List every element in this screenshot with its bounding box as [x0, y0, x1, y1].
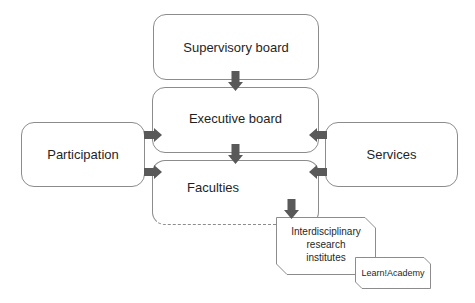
participation-label: Participation: [47, 147, 119, 162]
research-institutes-label-line-2: research: [291, 238, 360, 251]
research-institutes-label-line-3: institutes: [291, 251, 360, 264]
learn-academy-label: Learn!Academy: [355, 257, 431, 289]
services-label: Services: [367, 147, 417, 162]
faculties-label: Faculties: [187, 180, 239, 195]
executive-board-label: Executive board: [189, 111, 282, 126]
learn-academy-box: Learn!Academy: [355, 257, 431, 289]
supervisory-board-label: Supervisory board: [183, 40, 289, 55]
arrow-down-icon: [228, 71, 243, 91]
arrow-left-icon: [309, 165, 327, 179]
participation-box: Participation: [21, 122, 145, 187]
arrow-right-icon: [144, 128, 162, 142]
services-box: Services: [325, 122, 458, 187]
research-institutes-label-line-1: Interdisciplinary: [291, 225, 360, 238]
arrow-down-icon: [228, 144, 243, 164]
arrow-left-icon: [309, 128, 327, 142]
arrow-right-icon: [144, 165, 162, 179]
arrow-down-icon: [284, 199, 299, 219]
